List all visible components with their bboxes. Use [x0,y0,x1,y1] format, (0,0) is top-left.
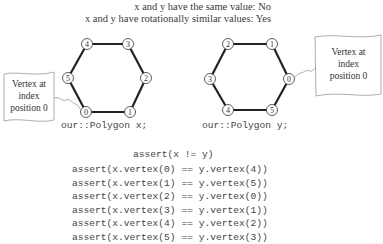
vertex-x-1: 1 [125,107,136,118]
callout-x-line1: Vertex at [4,78,54,90]
vertex-y-1: 1 [267,39,278,50]
callout-x-line3: position 0 [4,102,54,114]
vertex-y-3: 3 [205,74,216,85]
vertex-x-0: 0 [81,107,92,118]
svg-text:3: 3 [208,75,212,84]
assert-line-2: assert(x.vertex(2) == y.vertex(0)) [72,191,268,202]
callout-y-line2: index [316,58,381,70]
svg-text:1: 1 [128,108,132,117]
assert-line-5: assert(x.vertex(5) == y.vertex(3)) [72,232,268,243]
polygon-x: 0 1 2 3 4 5 [63,39,152,118]
vertex-y-5: 5 [267,105,278,116]
callout-y-line3: position 0 [316,70,381,82]
vertex-y-0: 0 [284,74,295,85]
vertex-y-2: 2 [223,39,234,50]
svg-text:2: 2 [144,74,148,83]
callout-x-text: Vertex at index position 0 [4,78,54,114]
vertex-x-5: 5 [63,73,74,84]
assert-line-1: assert(x.vertex(1) == y.vertex(5)) [72,178,268,189]
vertex-y-4: 4 [223,105,234,116]
vertex-x-3: 3 [123,39,134,50]
svg-text:0: 0 [287,75,291,84]
assert-inequality: assert(x != y) [133,149,214,160]
svg-text:4: 4 [85,40,89,49]
svg-text:3: 3 [126,40,130,49]
callout-y-line1: Vertex at [316,46,381,58]
svg-text:1: 1 [270,40,274,49]
declaration-x: our::Polygon x; [61,120,147,131]
vertex-x-4: 4 [82,39,93,50]
svg-text:0: 0 [84,108,88,117]
svg-text:4: 4 [226,106,230,115]
assert-line-4: assert(x.vertex(4) == y.vertex(2)) [72,218,268,229]
callout-y-text: Vertex at index position 0 [316,46,381,82]
assert-line-0: assert(x.vertex(0) == y.vertex(4)) [72,164,268,175]
declaration-y: our::Polygon y; [202,120,288,131]
vertex-x-2: 2 [141,73,152,84]
svg-text:5: 5 [66,74,70,83]
svg-text:2: 2 [226,40,230,49]
callout-x-line2: index [4,90,54,102]
polygon-y: 0 1 2 3 4 5 [205,39,295,116]
svg-text:5: 5 [270,106,274,115]
assert-line-3: assert(x.vertex(3) == y.vertex(1)) [72,205,268,216]
